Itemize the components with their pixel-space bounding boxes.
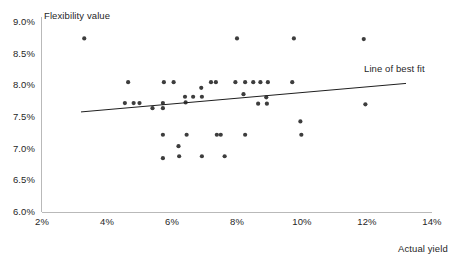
data-point [137,101,141,105]
data-point [362,37,366,41]
data-point [200,95,204,99]
data-point [243,133,247,137]
data-point [241,92,245,96]
data-point [265,102,269,106]
data-point [251,80,255,84]
data-point [161,133,165,137]
data-point [258,80,262,84]
data-point [299,133,303,137]
data-points-group [82,36,367,160]
data-point [161,156,165,160]
best-fit-line-label: Line of best fit [364,63,425,74]
data-point [363,102,367,106]
best-fit-line [81,83,406,112]
scatter-chart: Flexibility value Actual yield 6.0%6.5%7… [0,0,469,268]
data-point [233,80,237,84]
data-point [235,36,239,40]
data-point [199,86,203,90]
data-point [191,95,195,99]
data-point [292,36,296,40]
data-point [176,144,180,148]
data-point [161,106,165,110]
data-point [172,80,176,84]
data-point [243,80,247,84]
data-point [132,101,136,105]
data-point [214,80,218,84]
data-point [266,80,270,84]
data-point [200,154,204,158]
data-point [219,133,223,137]
data-point [290,80,294,84]
data-point [209,80,213,84]
data-point [126,80,130,84]
data-point [223,154,227,158]
data-point [298,119,302,123]
data-point [177,154,181,158]
data-point [183,95,187,99]
data-point [162,80,166,84]
data-point [256,102,260,106]
data-point [123,101,127,105]
data-point [185,133,189,137]
data-point [82,36,86,40]
plot-area [0,0,469,268]
data-point [215,133,219,137]
data-point [150,106,154,110]
